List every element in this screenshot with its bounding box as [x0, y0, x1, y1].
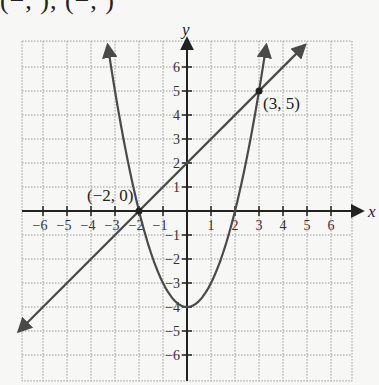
- points: (−2, 0)(3, 5): [87, 88, 300, 215]
- y-tick-label: 3: [173, 132, 180, 147]
- x-tick-label: 3: [256, 218, 263, 233]
- graph: xy −6−5−4−3−2−1123456−6−5−4−3−2−1123456 …: [0, 0, 379, 385]
- y-tick-label: −3: [165, 276, 180, 291]
- x-tick-label: −5: [57, 218, 72, 233]
- x-tick-label: 1: [208, 218, 215, 233]
- x-axis-label: x: [367, 202, 376, 221]
- y-tick-label: 6: [173, 60, 180, 75]
- y-tick-label: −2: [165, 252, 180, 267]
- intersection-point: [256, 88, 263, 95]
- line-curve: [19, 45, 305, 331]
- y-tick-label: 2: [173, 156, 180, 171]
- axes: xy: [22, 20, 376, 381]
- y-axis-label: y: [180, 20, 190, 39]
- y-tick-label: −1: [165, 228, 180, 243]
- x-tick-label: 4: [280, 218, 287, 233]
- x-tick-label: −6: [33, 218, 48, 233]
- point-label: (−2, 0): [87, 186, 133, 205]
- y-tick-label: 4: [173, 108, 180, 123]
- x-tick-label: 5: [304, 218, 311, 233]
- y-tick-label: 5: [173, 84, 180, 99]
- y-tick-label: −6: [165, 348, 180, 363]
- x-tick-label: 6: [328, 218, 335, 233]
- y-tick-label: 1: [173, 180, 180, 195]
- curves: [19, 45, 305, 331]
- intersection-point: [136, 208, 143, 215]
- point-label: (3, 5): [263, 94, 300, 113]
- x-tick-label: −3: [105, 218, 120, 233]
- y-tick-label: −5: [165, 324, 180, 339]
- x-tick-label: −4: [81, 218, 96, 233]
